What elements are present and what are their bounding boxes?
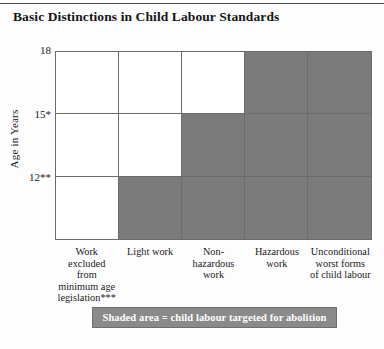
cell-r2-c1 — [56, 114, 119, 176]
legend-banner-text: Shaded area = child labour targeted for … — [102, 312, 326, 323]
cell-r3-c5 — [308, 177, 371, 239]
cell-r2-c2 — [119, 114, 182, 176]
cell-r3-c1 — [56, 177, 119, 239]
x-label-col5: Unconditionalworst formsof child labour — [309, 246, 372, 304]
figure-root: Basic Distinctions in Child Labour Stand… — [0, 0, 384, 349]
cell-r1-c4 — [245, 52, 308, 114]
chart-area: Age in Years 18 15* 12** Work excludedfr… — [0, 0, 384, 349]
cell-r1-c5 — [308, 52, 371, 114]
cell-r2-c5 — [308, 114, 371, 176]
legend-banner: Shaded area = child labour targeted for … — [92, 307, 337, 328]
y-tick-15: 15* — [5, 109, 51, 120]
x-label-col4: Hazardouswork — [245, 246, 308, 304]
cell-r2-c4 — [245, 114, 308, 176]
cell-r1-c1 — [56, 52, 119, 114]
matrix-grid — [55, 51, 372, 240]
cell-r1-c3 — [182, 52, 245, 114]
cell-r1-c2 — [119, 52, 182, 114]
x-label-col2: Light work — [118, 246, 181, 304]
y-tick-12: 12** — [5, 172, 51, 183]
cell-r2-c3 — [182, 114, 245, 176]
x-label-col3: Non-hazardouswork — [182, 246, 245, 304]
x-axis-labels: Work excludedfromminimum agelegislation*… — [55, 246, 372, 304]
y-tick-18: 18 — [5, 45, 51, 56]
y-axis-ticks: 18 15* 12** — [5, 0, 51, 240]
cell-r3-c2 — [119, 177, 182, 239]
x-label-col1: Work excludedfromminimum agelegislation*… — [55, 246, 118, 304]
cell-r3-c4 — [245, 177, 308, 239]
cell-r3-c3 — [182, 177, 245, 239]
